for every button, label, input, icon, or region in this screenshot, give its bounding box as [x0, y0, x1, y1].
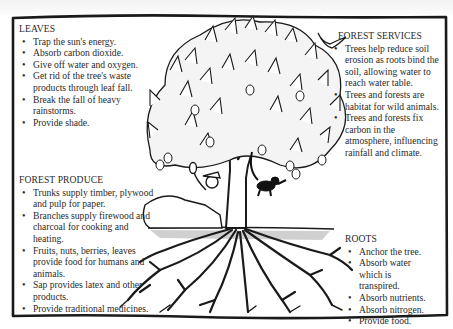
- list-item: Trees and forests are habitat for wild a…: [331, 89, 443, 112]
- list-item: Absorb nutrients.: [345, 292, 445, 304]
- list-item: Provide shade.: [19, 117, 154, 129]
- list-item: Get rid of the tree's waste products thr…: [19, 70, 143, 93]
- list-item: Sap provides latex and other products.: [19, 279, 143, 302]
- canopy: [147, 20, 345, 168]
- list-item: Give off water and oxygen.: [19, 59, 154, 71]
- list-item: Break the fall of heavy rainstorms.: [19, 94, 143, 117]
- leaves-list: Trap the sun's energy. Absorb carbon dio…: [19, 36, 154, 129]
- list-item: Provide food.: [345, 315, 445, 327]
- forest-produce-title: FOREST PRODUCE: [19, 174, 179, 186]
- roots-panel: ROOTS Anchor the tree. Absorb water whic…: [345, 233, 445, 327]
- leaves-title: LEAVES: [19, 23, 154, 35]
- list-item: Trees and forests fix carbon in the atmo…: [331, 112, 443, 158]
- list-item: Trunks supply timber, plywood and pulp f…: [19, 187, 168, 210]
- forest-services-list: Trees help reduce soil erosion as roots …: [331, 43, 443, 159]
- list-item: Absorb nitrogen.: [345, 304, 445, 316]
- forest-produce-panel: FOREST PRODUCE Trunks supply timber, ply…: [19, 174, 179, 314]
- forest-services-panel: FOREST SERVICES Trees help reduce soil e…: [331, 30, 443, 159]
- roots-title: ROOTS: [345, 233, 445, 245]
- list-item: Provide traditional medicines.: [19, 303, 193, 315]
- list-item: Trap the sun's energy.: [19, 36, 154, 48]
- list-item: Absorb carbon dioxide.: [19, 47, 154, 59]
- list-item: Trees help reduce soil erosion as roots …: [331, 43, 443, 89]
- forest-produce-list: Trunks supply timber, plywood and pulp f…: [19, 187, 179, 315]
- list-item: Fruits, nuts, berries, leaves provide fo…: [19, 245, 148, 280]
- leaves-panel: LEAVES Trap the sun's energy. Absorb car…: [19, 23, 154, 128]
- list-item: Absorb water which is transpired.: [345, 257, 429, 292]
- forest-services-title: FOREST SERVICES: [338, 30, 443, 42]
- roots-list: Anchor the tree. Absorb water which is t…: [345, 246, 445, 327]
- list-item: Branches supply firewood and charcoal fo…: [19, 210, 151, 245]
- list-item: Anchor the tree.: [345, 246, 445, 258]
